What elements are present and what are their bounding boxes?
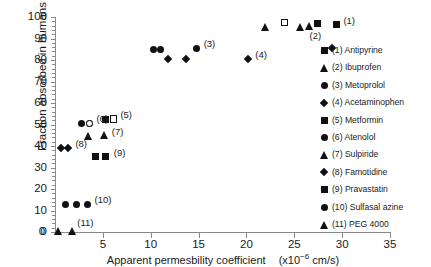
legend-item-label: (11) PEG 4000 (332, 216, 389, 233)
x-axis-title-main: Apparent permesbility coefficient (107, 254, 266, 266)
square-icon (318, 112, 330, 129)
legend: (1) Antipyrine(2) Ibuprofen(3) Metoprolo… (318, 42, 431, 233)
data-point-1 (333, 21, 340, 28)
legend-item-label: (4) Acetaminophen (332, 94, 404, 111)
legend-item-label: (10) Sulfasal azine (332, 199, 403, 216)
data-point-2 (261, 23, 269, 31)
data-point-10 (84, 201, 91, 208)
data-point-3 (157, 46, 164, 53)
legend-item-4[interactable]: (4) Acetaminophen (318, 94, 431, 111)
data-point-label: (10) (95, 195, 112, 205)
legend-item-9[interactable]: (9) Pravastatin (318, 181, 431, 198)
data-point-label: (2) (310, 31, 322, 41)
x-axis-units-exponent: −6 (300, 252, 309, 261)
y-tick-label: 20 (21, 183, 47, 195)
data-point-3 (193, 45, 200, 52)
data-point-4 (164, 55, 172, 63)
x-axis-units-post: cm/s) (309, 254, 339, 266)
data-point-extra (86, 120, 93, 127)
x-tick-label: 25 (279, 239, 309, 251)
data-point-label: (4) (255, 50, 267, 60)
legend-item-7[interactable]: (7) Sulpiride (318, 146, 431, 163)
legend-item-10[interactable]: (10) Sulfasal azine (318, 199, 431, 216)
legend-item-label: (6) Atenolol (332, 129, 375, 146)
legend-item-6[interactable]: (6) Atenolol (318, 129, 431, 146)
data-point-extra (281, 19, 289, 27)
x-tick-label: 35 (375, 239, 405, 251)
x-axis-title: Apparent permesbility coefficient (x10−6… (55, 251, 391, 266)
data-point-label: (11) (77, 218, 93, 228)
data-point-11 (54, 227, 62, 235)
legend-item-label: (7) Sulpiride (332, 146, 378, 163)
triangle-icon (318, 146, 330, 163)
legend-item-8[interactable]: (8) Famotidine (318, 164, 431, 181)
data-point-8 (64, 144, 72, 152)
x-tick-label: 15 (184, 239, 214, 251)
data-point-7 (100, 131, 108, 139)
legend-item-2[interactable]: (2) Ibuprofen (318, 59, 431, 76)
circle-icon (318, 77, 330, 94)
x-tick-label: 10 (136, 239, 166, 251)
x-axis-units-pre: (x10 (279, 254, 300, 266)
x-tick-label: 0 (27, 226, 57, 238)
y-axis-title: Fraction absorbed in humans (%) (36, 0, 48, 154)
legend-item-3[interactable]: (3) Metoprolol (318, 77, 431, 94)
triangle-icon (318, 59, 330, 76)
x-tick-label: 5 (88, 239, 118, 251)
triangle-icon (318, 216, 330, 233)
data-point-9 (92, 153, 99, 160)
data-point-10 (73, 201, 80, 208)
square-icon (318, 181, 330, 198)
y-tick-label: 10 (21, 205, 47, 217)
square-icon (318, 42, 330, 59)
data-point-label: (6) (96, 114, 108, 124)
diamond-icon (318, 164, 330, 181)
scatter-plot-figure: 0102030405060708090100 05101520253035 Fr… (0, 0, 431, 267)
legend-item-label: (2) Ibuprofen (332, 59, 381, 76)
data-point-2 (296, 23, 304, 31)
data-point-label: (8) (75, 139, 87, 149)
data-point-label: (9) (114, 148, 126, 158)
legend-item-11[interactable]: (11) PEG 4000 (318, 216, 431, 233)
data-point-4 (182, 55, 190, 63)
data-point-10 (62, 201, 69, 208)
legend-item-label: (3) Metoprolol (332, 77, 385, 94)
circle-icon (318, 199, 330, 216)
legend-item-5[interactable]: (5) Metformin (318, 112, 431, 129)
legend-item-label: (8) Famotidine (332, 164, 387, 181)
data-point-1 (314, 20, 321, 27)
data-point-9 (102, 153, 109, 160)
y-tick-label: 30 (21, 162, 47, 174)
legend-item-label: (5) Metformin (332, 112, 383, 129)
data-point-6 (78, 120, 85, 127)
data-point-2 (305, 22, 313, 30)
data-point-label: (5) (120, 110, 132, 120)
data-point-11 (68, 227, 76, 235)
circle-icon (318, 129, 330, 146)
legend-item-label: (9) Pravastatin (332, 181, 388, 198)
legend-item-label: (1) Antipyrine (332, 42, 383, 59)
data-point-extra (110, 115, 118, 123)
data-point-label: (3) (204, 39, 216, 49)
data-point-label: (1) (343, 16, 355, 26)
x-tick-label: 30 (327, 239, 357, 251)
legend-item-1[interactable]: (1) Antipyrine (318, 42, 431, 59)
data-point-4 (244, 55, 252, 63)
diamond-icon (318, 94, 330, 111)
data-point-label: (7) (112, 127, 124, 137)
x-tick-label: 20 (231, 239, 261, 251)
